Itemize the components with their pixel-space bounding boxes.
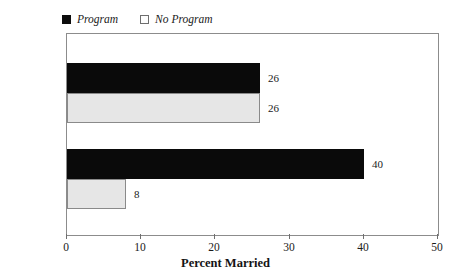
bar-value-males-program: 26 xyxy=(268,73,279,84)
x-tick-mark xyxy=(66,234,67,239)
chart-legend: Program No Program xyxy=(62,11,213,27)
bar-value-females-no-program: 8 xyxy=(134,189,140,200)
bar-value-females-program: 40 xyxy=(372,159,383,170)
x-tick-label-50: 50 xyxy=(431,241,443,253)
legend-item-program: Program xyxy=(62,13,118,25)
hollow-square-icon xyxy=(140,15,149,24)
x-tick-mark xyxy=(289,234,290,239)
legend-label-no-program: No Program xyxy=(155,13,212,25)
x-tick-label-40: 40 xyxy=(357,241,369,253)
x-tick-label-30: 30 xyxy=(283,241,295,253)
x-tick-mark xyxy=(140,234,141,239)
bar-chart: Program No Program Males Females 26 26 4… xyxy=(0,0,451,276)
x-tick-mark xyxy=(363,234,364,239)
x-tick-label-20: 20 xyxy=(208,241,220,253)
x-tick-mark xyxy=(437,234,438,239)
x-tick-label-10: 10 xyxy=(134,241,146,253)
x-tick-label-0: 0 xyxy=(63,241,69,253)
x-axis: 0 10 20 30 40 50 xyxy=(66,234,437,235)
bar-males-program xyxy=(67,63,260,93)
x-tick-mark xyxy=(214,234,215,239)
bar-females-program xyxy=(67,149,364,179)
bar-females-no-program xyxy=(67,179,126,209)
plot-frame: 26 26 40 8 xyxy=(66,33,439,236)
plot-area: 26 26 40 8 xyxy=(67,34,438,235)
legend-label-program: Program xyxy=(77,13,118,25)
x-axis-title: Percent Married xyxy=(0,256,451,270)
bar-males-no-program xyxy=(67,93,260,123)
filled-square-icon xyxy=(62,15,71,24)
legend-item-no-program: No Program xyxy=(140,13,212,25)
bar-value-males-no-program: 26 xyxy=(268,103,279,114)
